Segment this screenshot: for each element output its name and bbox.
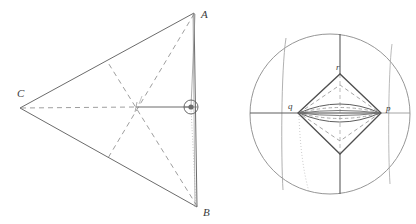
- edge-c-a: [20, 13, 194, 108]
- cevian-b-dashed: [107, 61, 197, 206]
- figure-container: A B C: [0, 0, 416, 224]
- vertex-label-b: B: [203, 206, 210, 218]
- cevian-a-dashed: [108, 14, 194, 158]
- edge-c-b: [20, 108, 197, 207]
- circle-diagram: q p r: [250, 34, 410, 194]
- triangle-diagram: A B C: [17, 8, 210, 218]
- median-tick-upper: [139, 96, 142, 104]
- vertex-label-c: C: [17, 87, 25, 99]
- dotted-arc-q: [299, 116, 309, 192]
- vertex-label-q: q: [288, 101, 293, 111]
- meridian-left-arc: [282, 38, 286, 190]
- vertex-label-a: A: [200, 8, 208, 20]
- vertex-label-r: r: [336, 62, 340, 72]
- combined-figure: A B C: [0, 0, 416, 224]
- vertex-label-p: p: [385, 103, 391, 113]
- outer-circle: [250, 34, 410, 194]
- meridian-right-arc: [389, 44, 392, 184]
- median-c-dashed: [21, 107, 136, 108]
